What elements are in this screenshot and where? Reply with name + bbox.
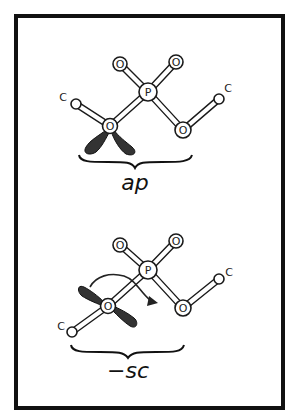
atom-label-c-right: C — [224, 82, 232, 95]
atom-label-o-ester: O — [104, 300, 113, 313]
atom-label-c-left: C — [57, 320, 65, 333]
atom-label-o-ester: O — [106, 120, 115, 133]
atom-label-o-right: O — [179, 124, 188, 137]
brace-icon — [79, 155, 192, 168]
bottom-conformer: O P O O O C C −sc — [57, 234, 233, 383]
atom-c-right — [214, 274, 224, 284]
lone-pair-left-icon — [85, 130, 110, 154]
atom-label-o-upper-left: O — [116, 58, 125, 71]
atom-label-o-upper-left: O — [116, 239, 125, 252]
lone-pair-right-icon — [111, 130, 135, 155]
figure-frame — [16, 16, 283, 408]
diagram-canvas: O P O O O C C ap — [0, 0, 294, 417]
atom-label-c-right: C — [225, 266, 233, 279]
top-conformer: O P O O O C C ap — [59, 55, 232, 195]
atom-label-o-upper-right: O — [172, 56, 181, 69]
atom-label-p: P — [145, 86, 152, 99]
atom-label-o-right: O — [179, 302, 188, 315]
conformation-figure: O P O O O C C ap — [0, 0, 294, 417]
arrowhead-icon — [147, 296, 158, 306]
atom-label-o-upper-right: O — [172, 235, 181, 248]
conformation-label-sc: −sc — [107, 358, 149, 383]
atom-c-left — [71, 99, 81, 109]
brace-icon — [71, 345, 184, 358]
atom-c-left — [67, 327, 77, 337]
atom-label-c-left: C — [59, 91, 67, 104]
conformation-label-ap: ap — [121, 170, 148, 195]
atom-c-right — [214, 94, 224, 104]
atom-label-p: P — [145, 264, 152, 277]
